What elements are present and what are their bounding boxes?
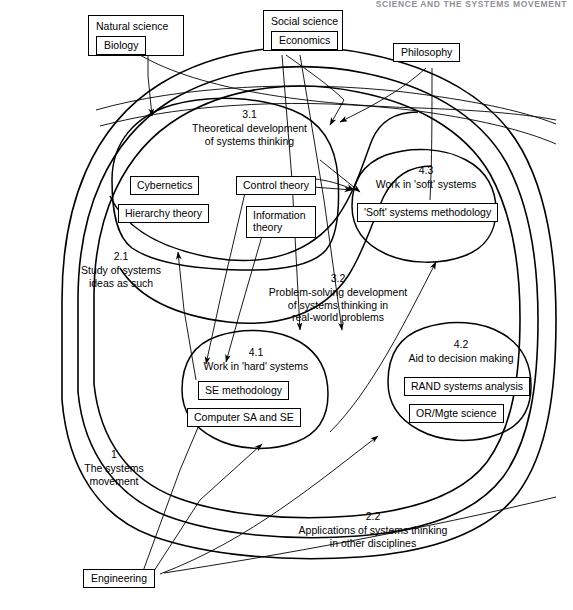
natural-science-item-biology[interactable]: Biology [96, 36, 146, 55]
region-1-number: 1 [66, 448, 162, 461]
item-box-control-theory[interactable]: Control theory [236, 176, 316, 195]
item-box-rand-systems-analysis[interactable]: RAND systems analysis [404, 377, 530, 396]
item-box-information-theory[interactable]: Information theory [246, 206, 316, 238]
diagram-page: SCIENCE AND THE SYSTEMS MOVEMENT [0, 0, 573, 610]
region-4-1-number: 4.1 [196, 346, 316, 359]
link-control-theory-to-4-1 [206, 180, 248, 364]
region-label-4-3: 4.3 Work in 'soft' systems [368, 164, 484, 191]
region-label-2-1: 2.1 Study of systems ideas as such [69, 250, 173, 289]
social-science-item-economics[interactable]: Economics [271, 31, 338, 50]
item-box-cybernetics[interactable]: Cybernetics [130, 176, 199, 195]
region-2-1-line2: ideas as such [89, 277, 153, 289]
item-box-hierarchy-theory[interactable]: Hierarchy theory [118, 204, 209, 223]
discipline-box-engineering[interactable]: Engineering [83, 569, 155, 588]
region-4-2-line1: Aid to decision making [408, 352, 513, 364]
information-theory-line1: Information [253, 209, 306, 221]
region-label-3-1: 3.1 Theoretical development of systems t… [167, 108, 332, 147]
item-box-se-methodology[interactable]: SE methodology [198, 381, 289, 400]
region-1-line2: movement [89, 475, 138, 487]
region-3-2-line3: real-world problems [292, 311, 384, 323]
region-2-2-number: 2.2 [280, 510, 466, 523]
region-4-2-number: 4.2 [401, 338, 521, 351]
item-box-soft-systems-methodology[interactable]: 'Soft' systems methodology [357, 203, 498, 222]
region-4-1-line1: Work in 'hard' systems [204, 360, 309, 372]
link-engineering-to-3-2 [152, 444, 262, 574]
region-3-2-number: 3.2 [252, 272, 424, 285]
discipline-box-philosophy[interactable]: Philosophy [393, 43, 460, 62]
item-box-computer-sa-and-se[interactable]: Computer SA and SE [187, 408, 301, 427]
item-box-or-mgte-science[interactable]: OR/Mgte science [409, 404, 504, 423]
region-4-3-number: 4.3 [368, 164, 484, 177]
region-4-3-line1: Work in 'soft' systems [376, 178, 477, 190]
region-3-1-number: 3.1 [167, 108, 332, 121]
information-theory-line2: theory [253, 221, 282, 233]
region-2-2-line2: in other disciplines [330, 537, 416, 549]
region-2-1-number: 2.1 [69, 250, 173, 263]
discipline-box-social-science[interactable]: Social science Economics [263, 10, 343, 51]
region-3-2-line2: of systems thinking in [288, 299, 388, 311]
region-label-4-1: 4.1 Work in 'hard' systems [196, 346, 316, 373]
region-3-1-line1: Theoretical development [192, 122, 307, 134]
discipline-box-natural-science[interactable]: Natural science Biology [88, 15, 184, 56]
region-3-2-line1: Problem-solving development [269, 286, 407, 298]
region-label-3-2: 3.2 Problem-solving development of syste… [252, 272, 424, 324]
region-3-1-line2: of systems thinking [205, 135, 294, 147]
natural-science-title: Natural science [96, 20, 176, 32]
link-engineering-to-4-2 [160, 436, 378, 574]
social-science-title: Social science [271, 15, 335, 27]
region-1-line1: The systems [84, 462, 144, 474]
region-2-2-line1: Applications of systems thinking [299, 524, 448, 536]
region-2-1-line1: Study of systems [81, 264, 161, 276]
link-into-4-3-from-upper [320, 160, 360, 192]
link-philosophy-to-3-1 [340, 68, 426, 122]
link-biology-to-3-1 [148, 55, 152, 116]
region-label-2-2: 2.2 Applications of systems thinking in … [280, 510, 466, 549]
region-label-1: 1 The systems movement [66, 448, 162, 487]
region-label-4-2: 4.2 Aid to decision making [401, 338, 521, 365]
